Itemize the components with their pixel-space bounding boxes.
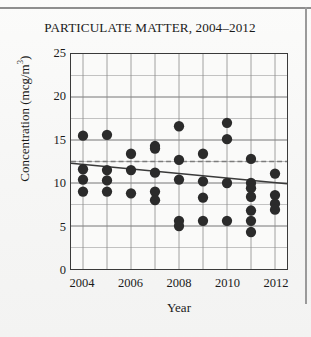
y-tick-label: 0 (40, 264, 66, 277)
data-point (78, 164, 88, 174)
y-axis-label-text: Concentration (mcg/m (17, 64, 32, 181)
data-layer (71, 54, 287, 269)
right-divider-rule (305, 7, 307, 304)
data-point (174, 155, 184, 165)
data-point (150, 195, 160, 205)
y-tick-label: 10 (40, 177, 66, 190)
data-point (270, 205, 280, 215)
data-point (102, 175, 112, 185)
data-point (270, 168, 280, 178)
y-axis-label-exponent: 3 (15, 60, 25, 64)
data-point (246, 205, 256, 215)
x-tick-label: 2010 (205, 277, 249, 290)
data-point (246, 154, 256, 164)
data-point (222, 216, 232, 226)
x-tick-label: 2008 (157, 277, 201, 290)
y-tick-label: 15 (40, 134, 66, 147)
data-point (78, 131, 88, 141)
data-point (198, 192, 208, 202)
data-point (174, 121, 184, 131)
data-point (174, 174, 184, 184)
x-tick-label: 2004 (60, 277, 104, 290)
data-point (198, 176, 208, 186)
data-point (174, 221, 184, 231)
data-point (198, 149, 208, 159)
data-point (102, 130, 112, 140)
y-tick-label: 25 (40, 47, 66, 60)
data-point (246, 227, 256, 237)
x-tick-label: 2006 (109, 277, 153, 290)
data-point (246, 216, 256, 226)
y-tick-label: 5 (40, 221, 66, 234)
data-point (222, 118, 232, 128)
y-tick-label: 20 (40, 90, 66, 103)
data-point (126, 188, 136, 198)
x-axis-label: Year (70, 300, 288, 316)
chart-title: PARTICULATE MATTER, 2004–2012 (0, 20, 300, 36)
data-point (78, 174, 88, 184)
data-point (78, 186, 88, 196)
data-point (150, 168, 160, 178)
y-axis-ticks: 2520151050 (36, 53, 66, 270)
top-divider-rule (0, 7, 311, 9)
data-point (126, 149, 136, 159)
data-point (246, 192, 256, 202)
data-point (222, 178, 232, 188)
data-point (222, 134, 232, 144)
data-point (102, 165, 112, 175)
data-point (102, 186, 112, 196)
x-tick-label: 2012 (254, 277, 298, 290)
data-point (150, 143, 160, 153)
plot-area (70, 53, 288, 270)
y-axis-label-tail: ) (17, 56, 32, 60)
data-point (198, 216, 208, 226)
x-axis-ticks: 20042006200820102012 (70, 277, 288, 295)
data-point (126, 165, 136, 175)
y-axis-label: Concentration (mcg/m3) (15, 9, 32, 229)
chart-figure: PARTICULATE MATTER, 2004–2012 Concentrat… (0, 0, 311, 337)
